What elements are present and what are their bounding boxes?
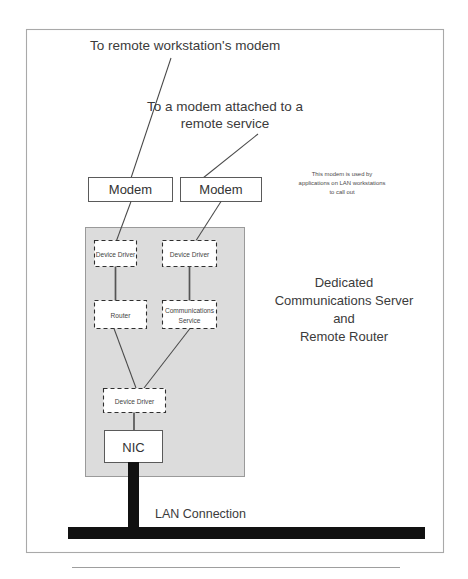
- modem-note-line1: This modem is used by: [312, 171, 373, 177]
- device-driver-bottom-label: Device Driver: [115, 398, 155, 405]
- comms-service-label-line2: Service: [179, 317, 201, 324]
- label-to-modem-attached-line1: To a modem attached to a: [147, 99, 304, 114]
- modem-note-line2: applications on LAN workstations: [299, 180, 386, 186]
- nic-label: NIC: [122, 440, 144, 455]
- side-caption-line2: Communications Server: [275, 293, 414, 308]
- label-to-remote-workstation-modem: To remote workstation's modem: [90, 38, 280, 53]
- leader-line-mid-heading: [203, 134, 258, 178]
- lan-bus: [68, 527, 425, 539]
- router-label: Router: [111, 312, 132, 319]
- side-caption-line3: and: [333, 311, 355, 326]
- modem-right-label: Modem: [199, 182, 242, 197]
- leader-line-top-heading: [131, 58, 171, 178]
- lan-connection-label: LAN Connection: [155, 507, 246, 521]
- device-driver-right-label: Device Driver: [170, 251, 210, 258]
- side-caption-line1: Dedicated: [315, 275, 374, 290]
- side-caption-line4: Remote Router: [300, 329, 389, 344]
- lan-drop-cable: [128, 462, 139, 528]
- modem-left-label: Modem: [109, 182, 152, 197]
- comms-service-label-line1: Communications: [165, 307, 215, 314]
- network-diagram: To remote workstation's modem To a modem…: [0, 0, 468, 579]
- device-driver-left-label: Device Driver: [96, 251, 136, 258]
- comms-service-box: [163, 301, 217, 329]
- modem-note-line3: to call out: [329, 189, 355, 195]
- label-to-modem-attached-line2: remote service: [181, 116, 270, 131]
